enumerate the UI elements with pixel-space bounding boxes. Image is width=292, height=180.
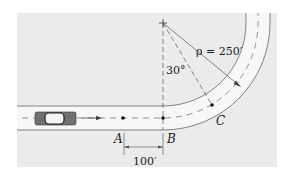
point-c-dot [210, 103, 214, 107]
label-radius: ρ = 250′ [196, 45, 243, 58]
label-point-a: A [113, 132, 123, 146]
label-point-c: C [216, 114, 225, 128]
label-distance: 100′ [133, 155, 157, 168]
car-icon [35, 112, 76, 125]
label-point-b: B [166, 132, 176, 146]
label-angle: 30° [166, 64, 186, 77]
motion-diagram: A B C ρ = 250′ 30° 100′ [0, 0, 292, 180]
point-b-dot [161, 116, 165, 120]
point-a-dot [121, 116, 125, 120]
